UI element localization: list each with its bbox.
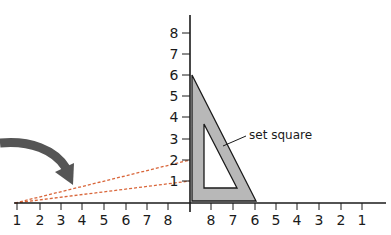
x-axis-right-labels: 8 7 6 5 4 3 2 1	[207, 212, 367, 228]
svg-text:8: 8	[164, 212, 173, 228]
svg-text:4: 4	[170, 109, 179, 125]
svg-text:5: 5	[170, 88, 179, 104]
svg-text:1: 1	[170, 173, 179, 189]
diagram-canvas: 8 7 6 5 4 3 2 1 1 2 3 4 5 6 7 8 8	[0, 0, 391, 235]
curved-arrow-icon	[0, 142, 74, 185]
svg-text:8: 8	[207, 212, 216, 228]
svg-text:7: 7	[170, 46, 179, 62]
svg-text:7: 7	[229, 212, 238, 228]
svg-text:6: 6	[122, 212, 131, 228]
svg-text:4: 4	[293, 212, 302, 228]
svg-text:5: 5	[100, 212, 109, 228]
x-axis-left-labels: 1 2 3 4 5 6 7 8	[13, 212, 173, 228]
set-square	[192, 75, 256, 201]
y-axis-labels: 8 7 6 5 4 3 2 1	[170, 25, 179, 189]
svg-text:1: 1	[358, 212, 367, 228]
svg-text:5: 5	[272, 212, 281, 228]
set-square-label: set square	[249, 128, 312, 142]
svg-text:4: 4	[78, 212, 87, 228]
svg-text:3: 3	[57, 212, 66, 228]
svg-text:2: 2	[170, 152, 179, 168]
svg-text:6: 6	[251, 212, 260, 228]
svg-text:8: 8	[170, 25, 179, 41]
svg-text:6: 6	[170, 67, 179, 83]
label-leader-line	[223, 136, 246, 146]
svg-text:3: 3	[315, 212, 324, 228]
svg-text:1: 1	[13, 212, 22, 228]
svg-text:2: 2	[36, 212, 45, 228]
dashed-lines	[15, 160, 190, 203]
svg-text:3: 3	[170, 131, 179, 147]
y-axis-ticks	[182, 33, 190, 181]
svg-text:7: 7	[143, 212, 152, 228]
svg-text:2: 2	[337, 212, 346, 228]
